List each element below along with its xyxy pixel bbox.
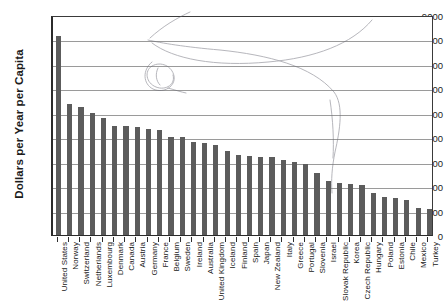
bar bbox=[281, 160, 286, 235]
bar bbox=[314, 173, 319, 235]
x-axis-tick bbox=[180, 237, 181, 242]
x-axis-tick-label: Korea bbox=[352, 242, 361, 264]
x-axis-tick-label: Slovak Republic bbox=[341, 242, 350, 301]
bar bbox=[56, 36, 61, 235]
bar bbox=[213, 145, 218, 235]
x-axis-tick bbox=[416, 237, 417, 242]
x-axis-tick-label: Mexico bbox=[419, 242, 428, 268]
x-axis-tick-label: Switzerland bbox=[82, 242, 91, 284]
x-axis-tick bbox=[191, 237, 192, 242]
bar bbox=[326, 181, 331, 236]
x-axis-tick bbox=[236, 237, 237, 242]
x-axis-tick bbox=[57, 237, 58, 242]
x-axis-tick bbox=[270, 237, 271, 242]
bar bbox=[348, 184, 353, 235]
x-axis-tick bbox=[293, 237, 294, 242]
x-axis-tick-label: Sweden bbox=[183, 242, 192, 272]
x-axis-tick bbox=[259, 237, 260, 242]
bar bbox=[258, 157, 263, 235]
x-axis-tick bbox=[147, 237, 148, 242]
bar bbox=[427, 209, 432, 235]
x-axis-tick-label: Slovenia bbox=[318, 242, 327, 274]
bar bbox=[101, 118, 106, 235]
x-axis-tick-label: Denmark bbox=[116, 242, 125, 275]
bar bbox=[168, 137, 173, 235]
x-axis-tick bbox=[214, 237, 215, 242]
x-axis-tick bbox=[338, 237, 339, 242]
bar bbox=[247, 156, 252, 235]
bar bbox=[292, 162, 297, 235]
bar bbox=[371, 193, 376, 235]
x-axis-tick bbox=[326, 237, 327, 242]
x-axis-tick-label: Germany bbox=[150, 242, 159, 276]
x-axis-tick-label: Spain bbox=[251, 242, 260, 263]
bar bbox=[180, 137, 185, 235]
x-axis-tick-label: Israel bbox=[329, 242, 338, 262]
x-axis-tick-label: Canada bbox=[127, 242, 136, 271]
x-axis-tick bbox=[135, 237, 136, 242]
bar bbox=[236, 155, 241, 235]
x-axis-tick-label: United States bbox=[60, 242, 69, 291]
x-axis-tick bbox=[315, 237, 316, 242]
x-axis-tick bbox=[68, 237, 69, 242]
bar bbox=[90, 113, 95, 235]
bar bbox=[382, 197, 387, 235]
bar bbox=[416, 208, 421, 235]
bar bbox=[269, 157, 274, 235]
x-axis-tick bbox=[203, 237, 204, 242]
x-axis-tick-label: Turkey bbox=[431, 242, 440, 267]
x-axis-tick-label: Poland bbox=[386, 242, 395, 268]
x-axis-tick-label: Greece bbox=[296, 242, 305, 269]
x-axis-tick bbox=[158, 237, 159, 242]
x-axis-tick bbox=[371, 237, 372, 242]
bar bbox=[225, 151, 230, 235]
plot-area bbox=[51, 16, 433, 236]
y-axis-tick-label: 0 bbox=[438, 231, 443, 242]
x-axis-tick bbox=[382, 237, 383, 242]
x-axis-tick bbox=[90, 237, 91, 242]
bar bbox=[337, 183, 342, 235]
x-axis-tick-label: Belgium bbox=[172, 242, 181, 272]
bar bbox=[67, 104, 72, 235]
x-axis-tick bbox=[102, 237, 103, 242]
x-axis-tick bbox=[225, 237, 226, 242]
x-axis-tick-label: Ireland bbox=[195, 242, 204, 267]
x-axis-tick-label: Hungary bbox=[374, 242, 383, 273]
bar bbox=[393, 198, 398, 235]
x-axis-tick bbox=[360, 237, 361, 242]
x-axis-tick-label: New Zealand bbox=[273, 242, 282, 290]
x-axis-tick-label: Australia bbox=[206, 242, 215, 274]
x-axis-tick bbox=[248, 237, 249, 242]
x-axis-tick-label: Iceland bbox=[228, 242, 237, 269]
bar bbox=[78, 107, 83, 235]
bar bbox=[202, 143, 207, 235]
bar bbox=[359, 185, 364, 235]
x-axis-tick-label: Netherlands bbox=[94, 242, 103, 286]
x-axis-tick bbox=[79, 237, 80, 242]
x-axis-tick-label: Japan bbox=[262, 242, 271, 264]
x-axis-tick-label: Portugal bbox=[307, 242, 316, 273]
x-axis-tick-label: Austria bbox=[138, 242, 147, 268]
x-axis-tick bbox=[427, 237, 428, 242]
bar bbox=[123, 126, 128, 235]
x-axis-tick-label: Norway bbox=[71, 242, 80, 270]
x-axis-tick bbox=[349, 237, 350, 242]
x-axis-tick-label: Chile bbox=[408, 242, 417, 261]
bar bbox=[112, 126, 117, 235]
x-axis-tick bbox=[281, 237, 282, 242]
x-axis-tick-label: Finland bbox=[240, 242, 249, 269]
bar-series bbox=[53, 17, 432, 235]
x-axis-tick bbox=[113, 237, 114, 242]
y-axis-title: Dollars per Year per Capita bbox=[13, 9, 25, 239]
x-axis-tick bbox=[169, 237, 170, 242]
x-axis-tick-label: France bbox=[161, 242, 170, 268]
x-axis-tick bbox=[124, 237, 125, 242]
bar bbox=[404, 200, 409, 235]
x-axis-tick-label: Czech Republic bbox=[363, 242, 372, 299]
bar bbox=[157, 130, 162, 235]
x-axis-tick bbox=[394, 237, 395, 242]
x-axis-tick-label: Estonia bbox=[397, 242, 406, 269]
bar bbox=[135, 127, 140, 235]
x-axis-tick-label: United Kingdom bbox=[217, 242, 226, 300]
